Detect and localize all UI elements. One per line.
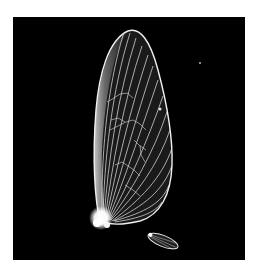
dust-speck xyxy=(159,108,162,111)
wing-photograph xyxy=(0,0,254,270)
dust-speck xyxy=(199,62,201,64)
